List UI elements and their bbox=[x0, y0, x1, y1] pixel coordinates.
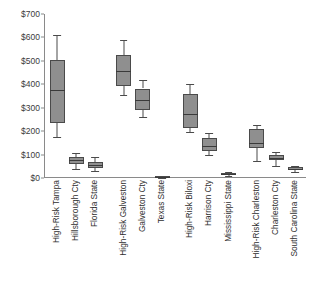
x-axis-label: High-Risk Charleston bbox=[252, 180, 260, 258]
whisker-cap-lower bbox=[253, 161, 261, 162]
whisker-cap-lower bbox=[91, 171, 99, 172]
y-axis-tick-mark bbox=[41, 178, 44, 179]
y-axis-tick-label: $100 bbox=[21, 150, 40, 159]
whisker-cap-lower bbox=[272, 166, 280, 167]
whisker-upper bbox=[123, 40, 124, 55]
whisker-cap-upper bbox=[91, 157, 99, 158]
y-axis-tick-label: $500 bbox=[21, 57, 40, 66]
box-plot bbox=[69, 14, 84, 178]
box-plot bbox=[221, 14, 236, 178]
iqr-box bbox=[249, 129, 264, 148]
whisker-cap-lower bbox=[72, 169, 80, 170]
whisker-lower bbox=[142, 110, 143, 117]
whisker-cap-upper bbox=[120, 40, 128, 41]
whisker-upper bbox=[190, 84, 191, 94]
y-axis-tick-mark bbox=[41, 14, 44, 15]
whisker-cap-upper bbox=[253, 125, 261, 126]
y-axis-tick-label: $400 bbox=[21, 80, 40, 89]
whisker-cap-lower bbox=[225, 176, 233, 177]
box-plot bbox=[269, 14, 284, 178]
x-axis-label: High-Risk Galveston bbox=[119, 180, 127, 256]
iqr-box bbox=[202, 138, 217, 151]
y-axis-tick-mark bbox=[41, 107, 44, 108]
box-plot-chart: $700$600$500$400$300$200$100$0 High-Risk… bbox=[0, 0, 311, 288]
median-line bbox=[183, 114, 198, 115]
median-line bbox=[135, 100, 150, 101]
x-axis-label: South Carolina State bbox=[290, 180, 298, 257]
median-line bbox=[69, 160, 84, 161]
iqr-box bbox=[50, 60, 65, 123]
x-axis-label: Florida State bbox=[90, 180, 98, 227]
whisker-lower bbox=[123, 86, 124, 95]
x-axis-label: High-Risk Tampa bbox=[52, 180, 60, 243]
whisker-cap-upper bbox=[53, 35, 61, 36]
whisker-cap-upper bbox=[205, 133, 213, 134]
x-axis-label: Galveston Cty bbox=[138, 180, 146, 232]
whisker-cap-lower bbox=[120, 95, 128, 96]
y-axis-tick-mark bbox=[41, 154, 44, 155]
median-line bbox=[50, 90, 65, 91]
whisker-lower bbox=[276, 160, 277, 167]
whisker-cap-lower bbox=[139, 117, 147, 118]
median-line bbox=[221, 174, 236, 175]
median-line bbox=[288, 169, 303, 170]
box-plot bbox=[249, 14, 264, 178]
box-plot bbox=[88, 14, 103, 178]
whisker-cap-upper bbox=[186, 84, 194, 85]
median-line bbox=[249, 143, 264, 144]
y-axis-tick-label: $200 bbox=[21, 127, 40, 136]
x-axis-label: Harrison Cty bbox=[204, 180, 212, 226]
box-plot bbox=[50, 14, 65, 178]
x-axis-label: Hillsborough Cty bbox=[71, 180, 79, 241]
median-line bbox=[155, 177, 170, 178]
whisker-upper bbox=[57, 35, 58, 60]
x-axis-label: High-Risk Biloxi bbox=[185, 180, 193, 238]
whisker-cap-lower bbox=[291, 172, 299, 173]
box-plot bbox=[202, 14, 217, 178]
x-axis-label: Charleston Cty bbox=[271, 180, 279, 235]
x-axis-label: Texas State bbox=[157, 180, 165, 223]
iqr-box bbox=[183, 94, 198, 128]
whisker-cap-lower bbox=[186, 132, 194, 133]
whisker-cap-lower bbox=[205, 155, 213, 156]
whisker-cap-lower bbox=[53, 137, 61, 138]
median-line bbox=[269, 158, 284, 159]
y-axis-tick-label: $300 bbox=[21, 103, 40, 112]
y-axis-tick-mark bbox=[41, 84, 44, 85]
box-plot bbox=[155, 14, 170, 178]
y-axis-tick-mark bbox=[41, 60, 44, 61]
whisker-cap-upper bbox=[272, 152, 280, 153]
whisker-lower bbox=[256, 148, 257, 161]
y-axis-line bbox=[44, 14, 45, 178]
box-plot bbox=[116, 14, 131, 178]
whisker-upper bbox=[142, 80, 143, 88]
whisker-cap-upper bbox=[72, 153, 80, 154]
plot-area: $700$600$500$400$300$200$100$0 bbox=[44, 14, 306, 178]
whisker-lower bbox=[57, 123, 58, 137]
x-axis-labels: High-Risk TampaHillsborough CtyFlorida S… bbox=[44, 180, 306, 288]
median-line bbox=[202, 146, 217, 147]
y-axis-tick-label: $0 bbox=[31, 174, 40, 183]
y-axis-tick-label: $600 bbox=[21, 33, 40, 42]
y-axis-tick-mark bbox=[41, 37, 44, 38]
x-axis-label: Mississippi State bbox=[224, 180, 232, 242]
median-line bbox=[88, 165, 103, 166]
box-plot bbox=[135, 14, 150, 178]
median-line bbox=[116, 71, 131, 72]
y-axis-tick-mark bbox=[41, 131, 44, 132]
box-plot bbox=[288, 14, 303, 178]
box-plot bbox=[183, 14, 198, 178]
y-axis-tick-label: $700 bbox=[21, 10, 40, 19]
whisker-cap-upper bbox=[139, 80, 147, 81]
